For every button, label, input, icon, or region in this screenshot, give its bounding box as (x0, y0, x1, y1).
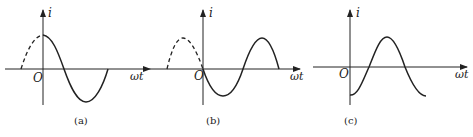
waveform-diagram: i O ωt (a) i O ωt (b) i O ωt (c) (0, 0, 473, 137)
panel-b: i O ωt (b) (150, 6, 304, 126)
origin-label: O (33, 71, 43, 85)
panel-caption: (b) (206, 115, 220, 126)
panel-caption: (a) (74, 115, 88, 126)
origin-label: O (339, 67, 349, 81)
waveform-curve (203, 38, 279, 96)
dashed-curve (167, 38, 203, 69)
x-axis-label: ωt (290, 70, 304, 83)
panel-a: i O ωt (a) (5, 6, 150, 126)
x-axis-label: ωt (455, 68, 469, 81)
origin-label: O (194, 69, 204, 83)
y-axis-label: i (356, 6, 360, 20)
panel-c: i O ωt (c) (313, 6, 469, 126)
x-axis-label: ωt (130, 70, 144, 83)
y-axis-label: i (209, 6, 213, 20)
y-axis-label: i (48, 6, 52, 20)
dashed-curve (21, 35, 43, 69)
panel-caption: (c) (344, 115, 358, 126)
